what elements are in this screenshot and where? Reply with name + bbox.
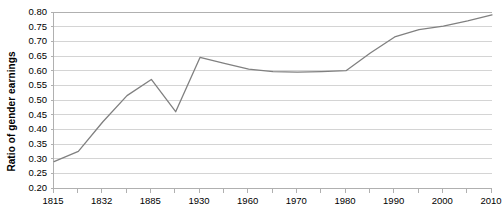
y-axis-tick-labels: 0.800.750.700.650.600.550.500.450.400.35…	[22, 0, 50, 223]
x-axis-tick-label: 2000	[432, 195, 453, 207]
y-axis-tick-label: 0.35	[29, 139, 48, 149]
x-axis-tick-label: 1885	[140, 195, 161, 207]
y-axis-tick-label: 0.70	[29, 36, 48, 46]
y-axis-tick-label: 0.20	[29, 183, 48, 193]
y-axis-tick-label: 0.50	[29, 95, 48, 105]
y-axis-title: Ratio of gender earnings	[0, 0, 22, 223]
y-axis-tick-label: 0.80	[29, 7, 48, 17]
x-axis-tick-label: 1960	[237, 195, 258, 207]
y-axis-tick-label: 0.75	[29, 22, 48, 32]
series-line	[54, 15, 492, 162]
plot-area	[53, 12, 491, 188]
x-axis-tick-label: 1930	[188, 195, 209, 207]
x-axis-tick-labels: 1815183218851930196019701980199020002010	[0, 195, 497, 211]
x-axis-tick-label: 2010	[480, 195, 501, 207]
x-axis-tick-label: 1832	[91, 195, 112, 207]
data-series-line	[54, 12, 492, 188]
y-axis-tick-label: 0.65	[29, 51, 48, 61]
y-axis-tick-label: 0.40	[29, 124, 48, 134]
x-axis-tick-label: 1815	[42, 195, 63, 207]
y-axis-tick-label: 0.25	[29, 168, 48, 178]
x-axis-tick-label: 1990	[383, 195, 404, 207]
x-axis-tick-label: 1970	[286, 195, 307, 207]
x-axis-tick-marks	[53, 188, 491, 194]
y-axis-tick-label: 0.55	[29, 80, 48, 90]
y-axis-tick-label: 0.30	[29, 154, 48, 164]
y-axis-tick-label: 0.60	[29, 66, 48, 76]
x-axis-tick-label: 1980	[334, 195, 355, 207]
y-axis-tick-label: 0.45	[29, 110, 48, 120]
